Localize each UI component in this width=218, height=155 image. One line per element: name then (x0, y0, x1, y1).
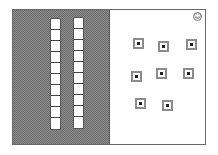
unit-cube[interactable] (186, 39, 197, 50)
unit-cube[interactable] (135, 98, 146, 109)
unit-cube[interactable] (158, 41, 169, 52)
rod-cell (51, 63, 60, 74)
dot-icon (137, 42, 140, 45)
rod-cell (74, 29, 83, 40)
rod-cell (51, 107, 60, 118)
rod-cell (51, 85, 60, 96)
ones-panel: ☺ (110, 10, 205, 144)
rod-cell (74, 73, 83, 84)
rod-cell (74, 18, 83, 29)
rod-cell (74, 62, 83, 73)
rod-cell (51, 96, 60, 107)
rod-cell (51, 52, 60, 63)
dot-icon (160, 72, 163, 75)
tens-panel (13, 10, 110, 144)
rod-cell (74, 95, 83, 106)
place-value-board: ☺ (12, 9, 206, 145)
unit-cube[interactable] (156, 68, 167, 79)
unit-cube[interactable] (131, 71, 142, 82)
rod-cell (51, 118, 60, 129)
dot-icon (139, 102, 142, 105)
unit-cube[interactable] (183, 68, 194, 79)
rod-cell (51, 30, 60, 41)
rod-cell (51, 19, 60, 30)
rod-cell (51, 41, 60, 52)
rod-cell (74, 51, 83, 62)
smiley-icon[interactable]: ☺ (193, 12, 202, 21)
ten-rod[interactable] (73, 17, 84, 129)
unit-cube[interactable] (133, 38, 144, 49)
rod-cell (74, 40, 83, 51)
ten-rod[interactable] (50, 18, 61, 130)
rod-cell (74, 84, 83, 95)
dot-icon (190, 43, 193, 46)
rod-cell (74, 117, 83, 128)
dot-icon (166, 104, 169, 107)
rod-cell (51, 74, 60, 85)
unit-cube[interactable] (162, 100, 173, 111)
dot-icon (135, 75, 138, 78)
dot-icon (187, 72, 190, 75)
rod-cell (74, 106, 83, 117)
dot-icon (162, 45, 165, 48)
